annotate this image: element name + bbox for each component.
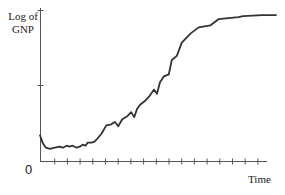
axes: [40, 8, 267, 162]
y-axis-label: Log of GNP: [6, 10, 40, 36]
chart: Log of GNP 0 Time: [0, 0, 285, 195]
gnp-line: [40, 15, 276, 149]
y-axis-label-line-2: GNP: [6, 23, 40, 36]
x-axis-label: Time: [248, 173, 271, 185]
origin-label: 0: [25, 162, 32, 177]
y-axis-label-line-1: Log of: [6, 10, 40, 23]
plot-area: [0, 0, 285, 195]
